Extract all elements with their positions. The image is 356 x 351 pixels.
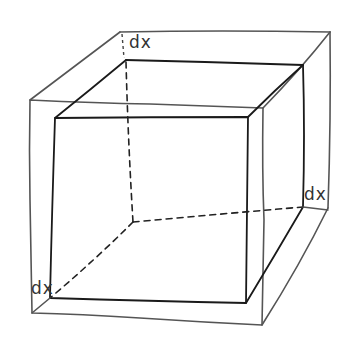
- inner-bottom-right-edge: [246, 207, 303, 303]
- inner-hidden-left-bottom-edge: [50, 222, 133, 298]
- outer-back-right-edge: [328, 32, 330, 208]
- right-offset-marker: [303, 207, 328, 210]
- inner-top-left-edge: [55, 60, 126, 118]
- offset-markers: [32, 34, 328, 313]
- outer-bottom-right-edge: [262, 208, 328, 325]
- dx-label-top: dx: [129, 34, 152, 51]
- inner-front-face: [50, 117, 248, 303]
- inner-cube: [50, 60, 304, 303]
- inner-hidden-vertical-edge: [126, 62, 133, 222]
- dx-label-right: dx: [304, 186, 327, 203]
- inner-top-right-edge: [248, 65, 303, 117]
- bottom-left-offset-marker: [32, 298, 50, 313]
- outer-cube: [30, 31, 331, 325]
- dx-label-bottom-left: dx: [31, 280, 54, 297]
- nested-cube-diagram: dx dx dx: [0, 0, 356, 351]
- top-offset-marker: [122, 34, 124, 58]
- outer-top-left-edge: [30, 32, 120, 100]
- inner-hidden-back-bottom-edge: [133, 207, 303, 222]
- inner-top-back-edge: [126, 60, 303, 65]
- cube-drawing: [0, 0, 356, 351]
- outer-front-face: [30, 100, 265, 325]
